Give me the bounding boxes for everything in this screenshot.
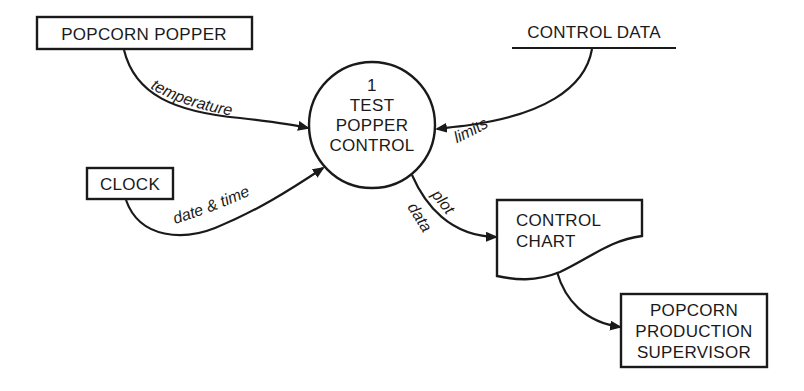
supervisor-label-line-3: SUPERVISOR [637,343,751,362]
document-label-line-2: CHART [516,232,576,251]
datastore-control-data-label: CONTROL DATA [527,23,661,42]
entity-clock[interactable]: CLOCK [87,168,173,199]
supervisor-label-line-2: PRODUCTION [635,322,752,341]
data-flow-diagram: POPCORN POPPER CLOCK CONTROL DATA 1 TEST… [0,0,804,391]
datastore-control-data[interactable]: CONTROL DATA [512,23,676,48]
flow-temperature[interactable]: temperature [124,50,308,128]
process-number: 1 [367,76,377,95]
flow-limits[interactable]: limits [437,49,592,146]
entity-popcorn-popper-label: POPCORN POPPER [61,25,227,44]
flow-plot-label: plot [428,186,458,218]
flow-date-time-label: date & time [171,182,252,227]
process-test-popper-control[interactable]: 1 TEST POPPER CONTROL [309,62,435,188]
flow-temperature-label: temperature [148,76,233,119]
process-label-line-1: TEST [350,96,395,115]
entity-clock-label: CLOCK [100,175,160,194]
entity-popcorn-production-supervisor[interactable]: POPCORN PRODUCTION SUPERVISOR [621,294,767,367]
flow-limits-label: limits [451,114,490,146]
flow-chart-to-supervisor[interactable] [557,272,620,327]
entity-popcorn-popper[interactable]: POPCORN POPPER [37,17,252,49]
process-label-line-3: CONTROL [329,136,414,155]
document-control-chart[interactable]: CONTROL CHART [497,200,642,279]
supervisor-label-line-1: POPCORN [650,301,738,320]
flow-plot-data[interactable]: plot data [404,175,496,237]
document-label-line-1: CONTROL [516,211,601,230]
process-label-line-2: POPPER [336,116,409,135]
